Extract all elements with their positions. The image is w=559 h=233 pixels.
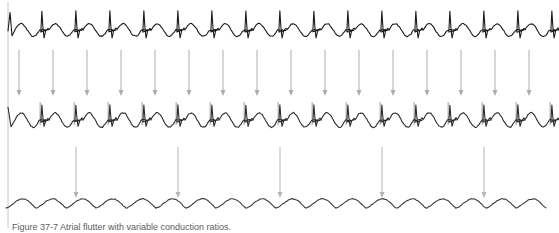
ecg-figure-canvas: [0, 0, 559, 233]
ecg-figure: Figure 37-7 Atrial flutter with variable…: [0, 0, 559, 233]
